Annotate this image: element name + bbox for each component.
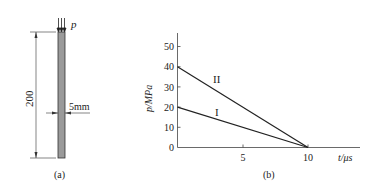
y-tick: 0 xyxy=(169,142,174,153)
x-axis-label: t/μs xyxy=(338,152,353,163)
caption-b: (b) xyxy=(263,169,275,181)
bar xyxy=(58,32,65,158)
chart-axes xyxy=(178,33,361,148)
x-tick: 10 xyxy=(303,152,313,163)
figure-b-chart: 0 10 20 30 40 50 5 10 p/MPa t/μs I II (b… xyxy=(143,33,360,181)
y-axis-label: p/MPa xyxy=(143,85,154,113)
series-II-line xyxy=(178,67,309,148)
series-I-label: I xyxy=(215,106,219,118)
length-label: 200 xyxy=(23,90,35,107)
load-arrows-icon xyxy=(57,18,66,32)
x-tick: 5 xyxy=(241,152,246,163)
y-tick: 10 xyxy=(164,122,174,133)
caption-a: (a) xyxy=(54,169,65,181)
series-II-label: II xyxy=(213,73,221,85)
y-tick: 30 xyxy=(164,82,174,93)
y-tick: 20 xyxy=(164,102,174,113)
x-tick-labels: 5 10 xyxy=(241,152,314,163)
y-tick-labels: 0 10 20 30 40 50 xyxy=(164,41,174,153)
thickness-label: 5mm xyxy=(69,101,90,112)
figure-a: p 200 5mm (a) xyxy=(23,18,90,181)
load-label: p xyxy=(70,18,77,30)
y-tick: 40 xyxy=(164,61,174,72)
y-tick: 50 xyxy=(164,41,174,52)
figure-canvas: p 200 5mm (a) xyxy=(0,0,387,195)
series-I-line xyxy=(178,107,309,147)
